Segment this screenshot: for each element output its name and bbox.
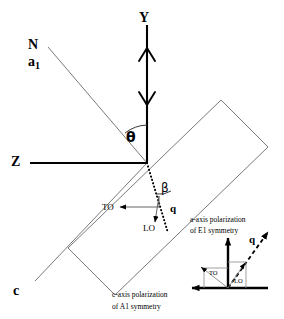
inset-q-label: q xyxy=(249,234,255,245)
inset-lo-label: LO xyxy=(234,278,243,285)
diagram-svg xyxy=(0,0,284,319)
theta-angle-label: θ xyxy=(126,130,136,144)
to-mode-label: TO xyxy=(102,203,114,212)
crystal-slab xyxy=(68,100,268,295)
z-axis-label: Z xyxy=(11,155,20,169)
y-axis xyxy=(139,25,155,163)
inset-diagram xyxy=(192,232,268,288)
c-axis-label: c xyxy=(13,284,19,298)
figure-canvas: N a1 Y Z c θ β q TO LO a-axis polarizati… xyxy=(0,0,284,319)
lo-mode-label: LO xyxy=(143,224,155,233)
inset-to-label: TO xyxy=(209,270,218,277)
lo-vector-main xyxy=(155,196,159,222)
y-axis-label: Y xyxy=(139,11,149,25)
normal-label-N: N xyxy=(28,38,38,52)
to-vector-main xyxy=(120,196,159,207)
a-axis-letter: a xyxy=(28,54,35,69)
a-axis-label: a1 xyxy=(28,55,40,71)
beta-angle-label: β xyxy=(161,182,169,194)
inset-caption-line2: of E1 symmetry xyxy=(190,227,238,235)
q-vector-label: q xyxy=(170,203,176,214)
c-axis-caption-line2: of A1 symmetry xyxy=(112,303,161,311)
a-axis-subscript: 1 xyxy=(35,60,40,71)
inset-caption-line1: a-axis polarization xyxy=(190,216,246,224)
c-axis-caption-line1: c-axis polarization xyxy=(112,291,168,299)
